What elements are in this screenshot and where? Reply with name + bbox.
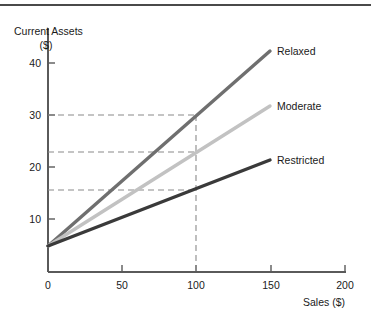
line-chart-canvas: Current Assets ($) Sales ($) 40 30 20 10… bbox=[0, 0, 371, 321]
series-line-relaxed bbox=[48, 51, 270, 246]
x-tick-label-0: 0 bbox=[45, 279, 51, 291]
x-tick-label-100: 100 bbox=[187, 279, 205, 291]
chart-figure: Current Assets ($) Sales ($) 40 30 20 10… bbox=[0, 0, 371, 321]
series-label-relaxed: Relaxed bbox=[277, 45, 316, 57]
y-tick-label-30: 30 bbox=[29, 109, 41, 121]
series-label-moderate: Moderate bbox=[277, 100, 322, 112]
series-line-restricted bbox=[48, 160, 270, 246]
x-axis-title: Sales ($) bbox=[303, 296, 345, 308]
y-tick-label-20: 20 bbox=[29, 161, 41, 173]
y-tick-label-40: 40 bbox=[29, 57, 41, 69]
y-axis-title-line2: ($) bbox=[40, 39, 53, 51]
y-tick-label-10: 10 bbox=[29, 213, 41, 225]
annotation-dashed-lines bbox=[48, 115, 196, 272]
y-tick-marks bbox=[48, 63, 55, 219]
x-tick-label-200: 200 bbox=[336, 279, 354, 291]
y-axis-title-line1: Current Assets bbox=[14, 25, 83, 37]
series-label-restricted: Restricted bbox=[277, 154, 324, 166]
series-line-moderate bbox=[48, 106, 270, 246]
x-tick-label-150: 150 bbox=[262, 279, 280, 291]
x-tick-label-50: 50 bbox=[116, 279, 128, 291]
